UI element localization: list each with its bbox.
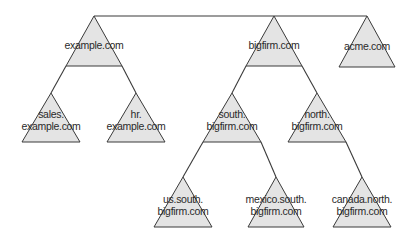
domain-label: example.com [64,39,124,51]
domain-label: canada.north. [332,193,392,205]
domain-label: acme.com [344,40,391,52]
domain-tree-diagram: example.combigfirm.comacme.comsales.exam… [0,0,413,238]
domain-label: bigfirm.com [207,120,259,132]
domain-label: bigfirm.com [337,205,389,217]
tree-edge-bigfirm-north [302,66,317,93]
domain-node-sales[interactable]: sales.example.com [21,93,81,142]
domain-node-bigfirm[interactable]: bigfirm.com [246,16,302,66]
domain-label: example.com [106,120,166,132]
tree-edge-south-mexico_south [261,142,276,177]
domain-node-us-south[interactable]: us.south.bigfirm.com [154,177,212,227]
domain-node-example[interactable]: example.com [64,16,124,66]
domain-label: bigfirm.com [292,120,344,132]
tree-edge-north-canada_north [346,142,362,177]
domain-label: bigfirm.com [249,39,301,51]
tree-edge-south-us_south [183,142,203,177]
domain-node-hr[interactable]: hr.example.com [106,93,166,142]
domain-label: bigfirm.com [158,205,210,217]
tree-nodes: example.combigfirm.comacme.comsales.exam… [21,16,395,227]
domain-label: mexico.south. [246,193,307,205]
domain-label: example.com [21,120,81,132]
domain-label: south. [219,108,246,120]
domain-node-north[interactable]: north.bigfirm.com [288,93,346,142]
domain-node-canada-north[interactable]: canada.north.bigfirm.com [332,177,392,227]
domain-node-acme[interactable]: acme.com [339,16,395,67]
domain-label: hr. [131,108,142,120]
domain-node-mexico-south[interactable]: mexico.south.bigfirm.com [246,177,307,227]
domain-label: north. [304,108,329,120]
domain-node-south[interactable]: south.bigfirm.com [203,93,261,142]
domain-label: us.south. [163,193,203,205]
domain-label: bigfirm.com [251,205,303,217]
domain-label: sales. [38,108,64,120]
tree-edge-example-hr [122,66,136,93]
tree-edge-example-sales [51,66,66,93]
tree-edge-bigfirm-south [232,66,246,93]
